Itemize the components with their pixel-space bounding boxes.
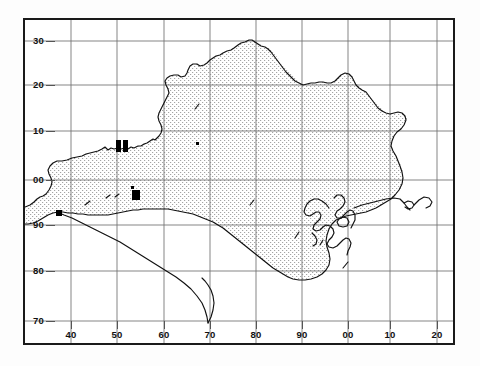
y-tick-mark-80 (46, 271, 55, 272)
east-tip (414, 197, 432, 208)
y-tick-mark-30 (46, 41, 55, 42)
south-coast-sweep (57, 212, 208, 323)
x-tick-mark-00 (348, 321, 349, 329)
x-tick-00: 00 (338, 330, 358, 340)
x-tick-40: 40 (61, 330, 81, 340)
land-fill-layer (25, 40, 407, 280)
x-tick-50: 50 (107, 330, 127, 340)
y-tick-80: 80 (26, 266, 44, 276)
x-tick-mark-70 (210, 321, 211, 329)
map-canvas (0, 0, 480, 366)
x-tick-mark-10 (390, 321, 391, 329)
harbour-island (337, 217, 349, 227)
record-marker (123, 140, 128, 152)
land-mass-fill (25, 40, 407, 280)
record-marker (196, 142, 199, 145)
record-marker (131, 186, 134, 189)
y-tick-20: 20 (26, 80, 44, 90)
record-marker (56, 210, 62, 216)
record-marker (132, 190, 140, 200)
distribution-map-figure: 30201000908070 405060708090001020 (0, 0, 480, 366)
x-tick-80: 80 (246, 330, 266, 340)
y-tick-70: 70 (26, 316, 44, 326)
x-tick-mark-40 (71, 321, 72, 329)
y-tick-90: 90 (26, 220, 44, 230)
y-tick-10: 10 (26, 126, 44, 136)
x-tick-20: 20 (427, 330, 447, 340)
purbeck-tail (202, 278, 214, 323)
y-tick-mark-90 (46, 225, 55, 226)
y-tick-mark-10 (46, 131, 55, 132)
x-tick-mark-20 (437, 321, 438, 329)
record-marker (116, 140, 121, 152)
x-tick-10: 10 (380, 330, 400, 340)
x-tick-mark-60 (164, 321, 165, 329)
x-tick-mark-80 (256, 321, 257, 329)
y-tick-mark-20 (46, 85, 55, 86)
x-tick-mark-50 (117, 321, 118, 329)
y-tick-30: 30 (26, 36, 44, 46)
inland-detail-7 (343, 262, 348, 268)
y-tick-mark-00 (46, 180, 55, 181)
x-tick-mark-90 (302, 321, 303, 329)
x-tick-70: 70 (200, 330, 220, 340)
y-tick-mark-70 (46, 321, 55, 322)
x-tick-90: 90 (292, 330, 312, 340)
x-tick-60: 60 (154, 330, 174, 340)
y-tick-00: 00 (26, 175, 44, 185)
